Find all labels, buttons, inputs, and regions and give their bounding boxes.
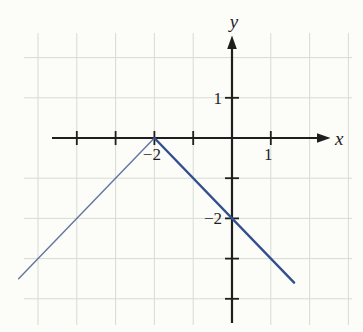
- graph-canvas: −211−2xy: [0, 0, 363, 332]
- y-tick-label: −2: [204, 209, 222, 228]
- x-axis-label: x: [334, 128, 344, 149]
- graph-figure: −211−2xy: [0, 0, 363, 332]
- y-tick-label: 1: [214, 89, 223, 108]
- y-axis-label: y: [228, 11, 239, 32]
- x-tick-label: 1: [264, 145, 273, 164]
